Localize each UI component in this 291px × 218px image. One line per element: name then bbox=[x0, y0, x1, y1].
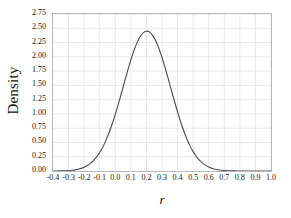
y-axis-tick-label: 0.00 bbox=[32, 166, 46, 174]
x-axis-tick-label: 0.8 bbox=[235, 174, 245, 182]
y-axis-tick-label: 1.00 bbox=[32, 109, 46, 117]
x-axis-tick-label: 0.4 bbox=[173, 174, 183, 182]
y-axis-tick-label: 0.75 bbox=[32, 123, 46, 131]
density-plot-figure: Density 0.000.250.500.751.001.251.501.75… bbox=[0, 0, 291, 218]
y-axis-tick-label: 0.25 bbox=[32, 152, 46, 160]
x-axis-tick-label: 0.0 bbox=[110, 174, 120, 182]
x-axis-tick-label: 0.3 bbox=[157, 174, 167, 182]
y-axis-title-text: Density bbox=[5, 66, 22, 114]
x-axis-tick-label: 0.1 bbox=[126, 174, 136, 182]
x-axis-tick-labels: -0.4-0.3-0.2-0.10.00.10.20.30.40.50.60.7… bbox=[52, 174, 272, 186]
vertical-gridlines bbox=[69, 14, 271, 171]
x-axis-tick-label: 0.7 bbox=[219, 174, 229, 182]
y-axis-tick-label: 2.75 bbox=[32, 9, 46, 17]
x-axis-tick-label: -0.2 bbox=[78, 174, 91, 182]
x-axis-tick-label: 0.9 bbox=[250, 174, 260, 182]
x-axis-title: r bbox=[52, 192, 272, 208]
x-axis-tick-label: -0.1 bbox=[93, 174, 106, 182]
y-axis-tick-label: 1.25 bbox=[32, 95, 46, 103]
y-axis-tick-label: 2.50 bbox=[32, 23, 46, 31]
y-axis-tick-label: 1.50 bbox=[32, 80, 46, 88]
y-axis-tick-label: 2.25 bbox=[32, 38, 46, 46]
x-axis-tick-label: -0.4 bbox=[47, 174, 60, 182]
plot-area bbox=[52, 13, 272, 172]
x-axis-tick-label: -0.3 bbox=[62, 174, 75, 182]
x-axis-tick-label: 1.0 bbox=[266, 174, 276, 182]
x-axis-tick-label: 0.6 bbox=[204, 174, 214, 182]
y-axis-tick-labels: 0.000.250.500.751.001.251.501.752.002.25… bbox=[20, 13, 49, 172]
y-axis-tick-label: 2.00 bbox=[32, 52, 46, 60]
plot-svg bbox=[53, 14, 271, 171]
y-axis-tick-label: 0.50 bbox=[32, 137, 46, 145]
y-axis-tick-label: 1.75 bbox=[32, 66, 46, 74]
x-axis-tick-label: 0.2 bbox=[141, 174, 151, 182]
x-axis-tick-label: 0.5 bbox=[188, 174, 198, 182]
